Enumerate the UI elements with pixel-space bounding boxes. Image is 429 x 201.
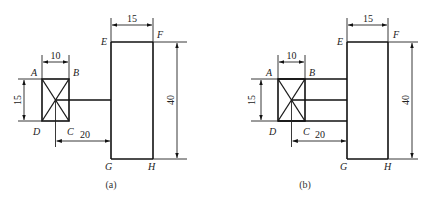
label-b: B [73, 67, 79, 78]
dim-offset: 20 [315, 129, 325, 140]
label-b: B [309, 67, 315, 78]
label-a: A [30, 67, 38, 78]
label-a: A [265, 67, 273, 78]
label-f: F [392, 29, 400, 40]
dim-large-height: 40 [165, 95, 176, 105]
label-h: H [147, 161, 156, 172]
dim-small-width: 10 [287, 50, 297, 61]
caption-b: (b) [299, 179, 311, 191]
dim-small-height: 15 [246, 95, 257, 105]
diagram-b: 10 15 20 15 40 A B C D E F G H (b) [246, 13, 418, 191]
label-h: H [383, 161, 392, 172]
label-e: E [336, 36, 343, 47]
dim-small-height: 15 [12, 95, 23, 105]
label-g: G [105, 161, 112, 172]
label-d: D [268, 126, 277, 137]
label-e: E [100, 36, 107, 47]
figure-canvas: 10 15 20 15 40 A B C D E F G H (a) [0, 0, 429, 201]
label-c: C [303, 126, 310, 137]
dim-large-width: 15 [363, 13, 373, 24]
label-d: D [32, 126, 41, 137]
dim-large-width: 15 [127, 13, 137, 24]
label-c: C [67, 126, 74, 137]
dim-small-width: 10 [51, 50, 61, 61]
diagram-a: 10 15 20 15 40 A B C D E F G H (a) [12, 13, 187, 191]
caption-a: (a) [105, 179, 116, 191]
label-f: F [156, 29, 164, 40]
label-g: G [340, 161, 347, 172]
dim-large-height: 40 [400, 95, 411, 105]
dim-offset: 20 [80, 129, 90, 140]
